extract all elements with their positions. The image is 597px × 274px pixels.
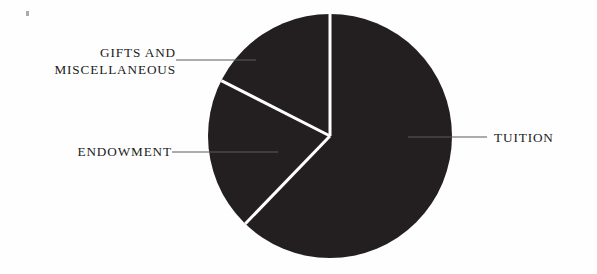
slice-label-endowment: ENDOWMENT (24, 143, 172, 160)
slice-label-tuition: TUITION (494, 129, 554, 146)
slice-label-gifts-line-2: MISCELLANEOUS (28, 61, 176, 78)
scan-artifact-mark (26, 11, 29, 16)
slice-label-gifts-line-1: GIFTS AND (100, 45, 176, 60)
slice-label-gifts-and-miscellaneous: GIFTS AND MISCELLANEOUS (28, 44, 176, 78)
